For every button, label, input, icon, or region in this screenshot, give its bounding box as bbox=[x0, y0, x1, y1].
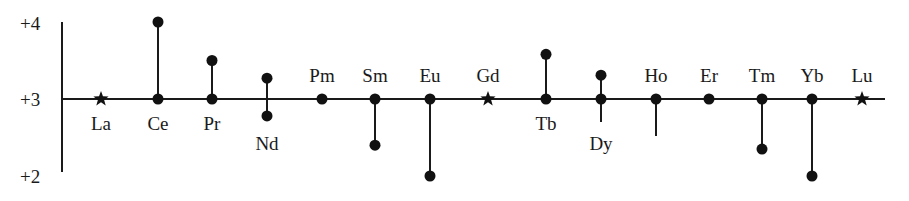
base-state-dot bbox=[651, 94, 662, 105]
element-label: Yb bbox=[800, 65, 823, 86]
element-tb: Tb bbox=[535, 49, 556, 134]
element-pr: Pr bbox=[204, 55, 222, 134]
star-icon bbox=[854, 91, 869, 105]
base-state-dot bbox=[757, 94, 768, 105]
element-yb: Yb bbox=[800, 65, 823, 182]
element-eu: Eu bbox=[419, 65, 441, 182]
element-ho: Ho bbox=[644, 65, 667, 136]
element-label: Dy bbox=[589, 133, 613, 154]
element-label: Ho bbox=[644, 65, 667, 86]
element-label: Tb bbox=[535, 113, 556, 134]
lower-state-dot bbox=[370, 140, 381, 151]
element-la: La bbox=[91, 91, 112, 134]
base-state-dot bbox=[425, 94, 436, 105]
upper-state-dot bbox=[207, 55, 218, 66]
lower-state-dot bbox=[425, 171, 436, 182]
element-nd: Nd bbox=[255, 73, 279, 154]
upper-state-dot bbox=[153, 17, 164, 28]
lower-state-dot bbox=[757, 144, 768, 155]
base-state-dot bbox=[207, 94, 218, 105]
element-label: Ce bbox=[147, 113, 168, 134]
base-state-dot bbox=[317, 94, 328, 105]
base-state-dot bbox=[704, 94, 715, 105]
element-label: Tm bbox=[749, 65, 776, 86]
star-icon bbox=[480, 91, 495, 105]
base-state-dot bbox=[807, 94, 818, 105]
lanthanide-oxidation-state-diagram: +4 +3 +2 LaCePrNdPmSmEuGdTbDyHoErTmYbLu bbox=[0, 0, 909, 201]
y-tick-label-plus2: +2 bbox=[20, 166, 40, 187]
base-state-dot bbox=[153, 94, 164, 105]
y-tick-label-plus3: +3 bbox=[20, 89, 40, 110]
upper-state-dot bbox=[262, 73, 273, 84]
base-state-dot bbox=[541, 94, 552, 105]
element-ce: Ce bbox=[147, 17, 168, 135]
element-label: Pm bbox=[309, 65, 335, 86]
upper-state-dot bbox=[596, 70, 607, 81]
element-sm: Sm bbox=[362, 65, 388, 151]
lower-state-dot bbox=[262, 110, 273, 121]
element-label: Pr bbox=[204, 113, 222, 134]
y-tick-label-plus4: +4 bbox=[20, 13, 41, 34]
base-state-dot bbox=[370, 94, 381, 105]
star-icon bbox=[93, 91, 108, 105]
element-label: Er bbox=[700, 65, 719, 86]
element-tm: Tm bbox=[749, 65, 776, 155]
upper-state-dot bbox=[541, 49, 552, 60]
element-label: Eu bbox=[419, 65, 441, 86]
element-label: Nd bbox=[255, 133, 279, 154]
element-label: Lu bbox=[851, 65, 873, 86]
lower-state-dot bbox=[807, 171, 818, 182]
element-label: Sm bbox=[362, 65, 388, 86]
element-dy: Dy bbox=[589, 70, 613, 154]
base-state-dot bbox=[596, 94, 607, 105]
element-label: La bbox=[91, 113, 112, 134]
element-label: Gd bbox=[476, 65, 500, 86]
